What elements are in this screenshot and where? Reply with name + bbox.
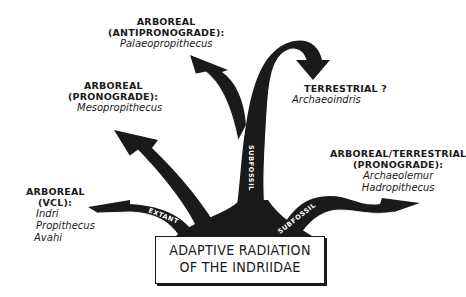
taxon-name: Archaeoindris xyxy=(292,94,387,106)
taxon-name: Mesopropithecus xyxy=(68,102,162,114)
title-line-1: ADAPTIVE RADIATION xyxy=(166,242,314,259)
taxon-name: Hadropithecus xyxy=(330,182,466,194)
taxon-name: Indri xyxy=(26,208,95,220)
group-arboreal-terrestrial: ARBOREAL/TERRESTRIAL (PRONOGRADE): Archa… xyxy=(330,148,466,194)
label-subfossil-center: SUBFOSSIL xyxy=(247,145,255,191)
group-heading: TERRESTRIAL ? xyxy=(292,83,387,94)
arrow-palaeopropithecus xyxy=(190,55,246,140)
group-subheading: (PRONOGRADE): xyxy=(330,159,466,170)
title-line-2: OF THE INDRIIDAE xyxy=(166,259,314,276)
taxon-name: Propithecus xyxy=(26,220,95,232)
arrow-extant xyxy=(88,200,196,238)
group-heading: ARBOREAL xyxy=(68,80,162,91)
taxon-name: Avahi xyxy=(26,232,95,244)
group-terrestrial: TERRESTRIAL ? Archaeoindris xyxy=(292,83,387,106)
group-subheading: (VCL): xyxy=(26,197,95,208)
group-subheading: (ANTIPRONOGRADE): xyxy=(108,27,224,38)
group-subheading: (PRONOGRADE): xyxy=(68,91,162,102)
taxon-name: Archaeolemur xyxy=(330,170,466,182)
group-vcl: ARBOREAL (VCL): Indri Propithecus Avahi xyxy=(26,186,95,244)
diagram-title-box: ADAPTIVE RADIATION OF THE INDRIIDAE xyxy=(155,236,325,284)
group-antipronograde: ARBOREAL (ANTIPRONOGRADE): Palaeopropith… xyxy=(108,16,224,50)
group-heading: ARBOREAL/TERRESTRIAL xyxy=(330,148,466,159)
group-heading: ARBOREAL xyxy=(26,186,95,197)
group-heading: ARBOREAL xyxy=(108,16,224,27)
taxon-name: Palaeopropithecus xyxy=(108,38,224,50)
group-pronograde: ARBOREAL (PRONOGRADE): Mesopropithecus xyxy=(68,80,162,114)
